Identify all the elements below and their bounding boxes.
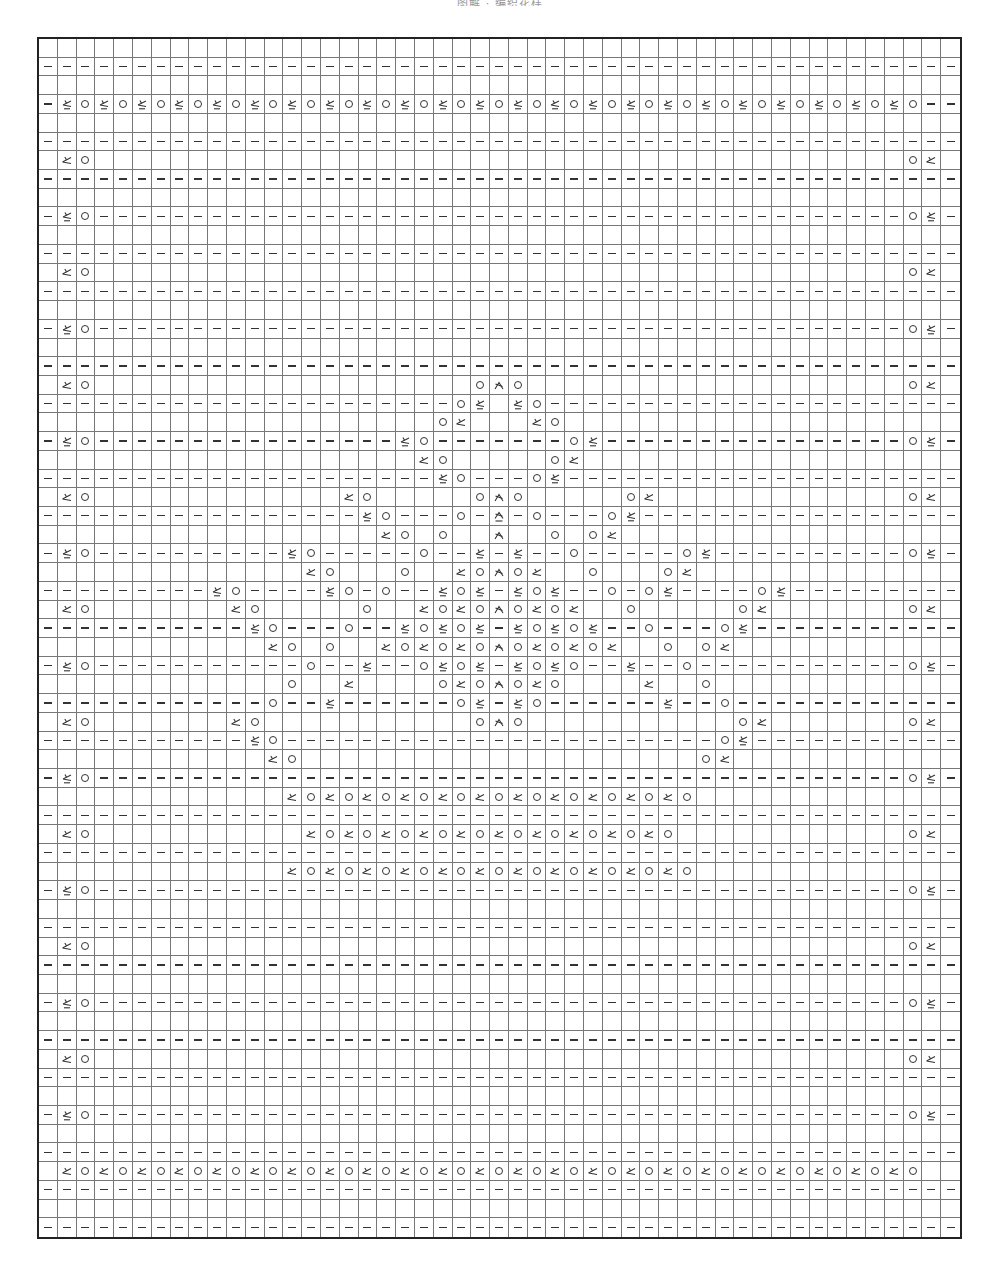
blank-cell [453, 1087, 472, 1106]
purl-dash-icon [528, 1218, 547, 1237]
blank-cell [189, 488, 208, 507]
purl-dash-icon [922, 694, 941, 713]
purl-dash-icon [753, 956, 772, 975]
purl-dash-icon [114, 881, 133, 900]
blank-cell [227, 413, 246, 432]
purl-dash-icon [697, 994, 716, 1013]
blank-cell [265, 301, 284, 320]
purl-dash-icon [396, 1069, 415, 1088]
blank-cell [810, 226, 829, 245]
purl-dash-icon [415, 769, 434, 788]
blank-cell [152, 938, 171, 957]
yarn-over-icon [490, 788, 509, 807]
purl-dash-icon [828, 619, 847, 638]
purl-dash-icon [528, 881, 547, 900]
purl-dash-icon [640, 1031, 659, 1050]
purl-dash-icon [208, 432, 227, 451]
blank-cell [208, 563, 227, 582]
blank-cell [396, 1125, 415, 1144]
blank-cell [885, 1050, 904, 1069]
blank-cell [490, 900, 509, 919]
blank-cell [434, 1125, 453, 1144]
purl-dash-icon [208, 544, 227, 563]
purl-dash-icon [866, 1106, 885, 1125]
k2tog-icon [509, 1162, 528, 1181]
purl-dash-icon [509, 432, 528, 451]
blank-cell [941, 1125, 960, 1144]
purl-dash-icon [941, 806, 960, 825]
blank-cell [396, 226, 415, 245]
purl-dash-icon [734, 1069, 753, 1088]
purl-dash-icon [340, 544, 359, 563]
blank-cell [528, 1200, 547, 1219]
purl-dash-icon [885, 657, 904, 676]
purl-dash-icon [415, 694, 434, 713]
purl-dash-icon [39, 956, 58, 975]
purl-dash-icon [697, 1069, 716, 1088]
blank-cell [734, 1200, 753, 1219]
k2tog-icon [753, 601, 772, 620]
purl-decrease-icon [171, 95, 190, 114]
yarn-over-icon [640, 95, 659, 114]
blank-cell [227, 301, 246, 320]
yarn-over-icon [471, 675, 490, 694]
blank-cell [302, 413, 321, 432]
blank-cell [171, 1012, 190, 1031]
blank-cell [152, 1125, 171, 1144]
purl-dash-icon [772, 1031, 791, 1050]
purl-dash-icon [340, 881, 359, 900]
blank-cell [359, 413, 378, 432]
purl-dash-icon [622, 956, 641, 975]
blank-cell [114, 226, 133, 245]
purl-dash-icon [133, 806, 152, 825]
purl-dash-icon [791, 657, 810, 676]
blank-cell [528, 938, 547, 957]
blank-cell [734, 451, 753, 470]
purl-dash-icon [227, 1218, 246, 1237]
purl-dash-icon [622, 1069, 641, 1088]
blank-cell [697, 1050, 716, 1069]
blank-cell [39, 638, 58, 657]
blank-cell [453, 451, 472, 470]
blank-cell [791, 750, 810, 769]
purl-dash-icon [434, 1069, 453, 1088]
blank-cell [584, 938, 603, 957]
blank-cell [415, 526, 434, 545]
purl-dash-icon [77, 694, 96, 713]
blank-cell [302, 226, 321, 245]
purl-decrease-icon [471, 95, 490, 114]
purl-dash-icon [791, 395, 810, 414]
k2tog-icon [603, 526, 622, 545]
purl-decrease-icon [546, 657, 565, 676]
purl-dash-icon [791, 1106, 810, 1125]
purl-dash-icon [58, 357, 77, 376]
yarn-over-icon [904, 769, 923, 788]
blank-cell [114, 1087, 133, 1106]
blank-cell [640, 114, 659, 133]
purl-dash-icon [189, 1143, 208, 1162]
blank-cell [189, 301, 208, 320]
blank-cell [208, 76, 227, 95]
blank-cell [471, 264, 490, 283]
purl-dash-icon [133, 470, 152, 489]
yarn-over-icon [697, 638, 716, 657]
purl-dash-icon [58, 170, 77, 189]
purl-dash-icon [77, 395, 96, 414]
purl-dash-icon [810, 207, 829, 226]
purl-dash-icon [659, 769, 678, 788]
yarn-over-icon [302, 657, 321, 676]
blank-cell [265, 975, 284, 994]
blank-cell [265, 151, 284, 170]
purl-dash-icon [810, 956, 829, 975]
blank-cell [659, 226, 678, 245]
purl-dash-icon [152, 1069, 171, 1088]
blank-cell [659, 1200, 678, 1219]
purl-dash-icon [95, 994, 114, 1013]
blank-cell [734, 301, 753, 320]
blank-cell [95, 938, 114, 957]
blank-cell [885, 938, 904, 957]
blank-cell [866, 301, 885, 320]
purl-dash-icon [810, 58, 829, 77]
blank-cell [227, 1125, 246, 1144]
purl-decrease-icon [509, 95, 528, 114]
